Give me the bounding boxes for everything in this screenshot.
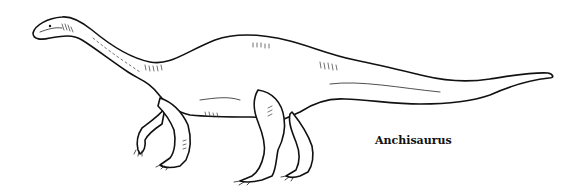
illustration [0, 0, 580, 194]
species-caption: Anchisaurus [375, 134, 452, 147]
anchisaurus-drawing [0, 0, 580, 194]
